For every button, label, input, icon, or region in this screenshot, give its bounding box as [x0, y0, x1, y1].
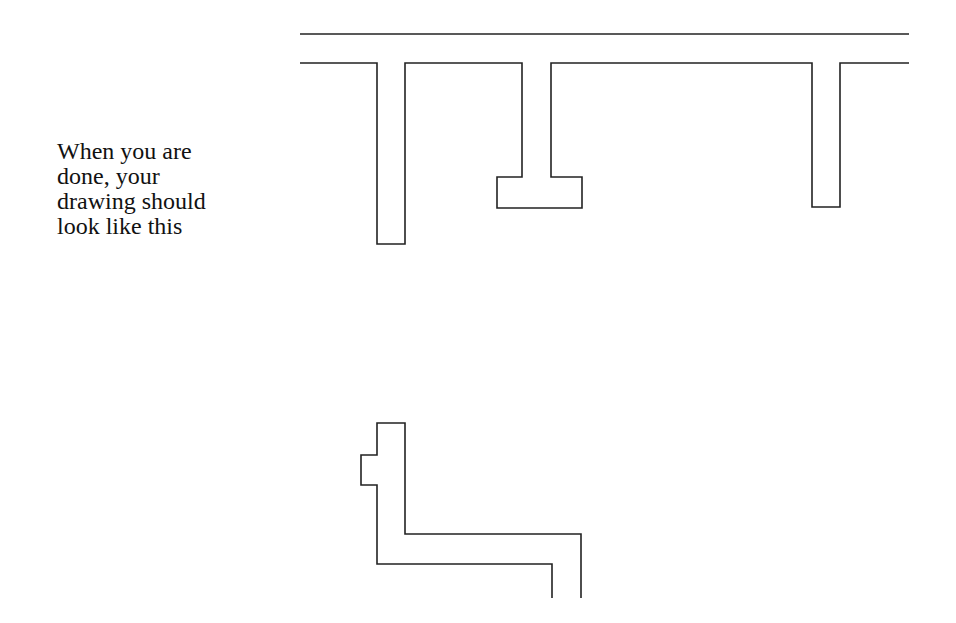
drawing-canvas [0, 0, 956, 623]
upper-outline-shape [300, 63, 909, 244]
lower-outline-shape [361, 423, 581, 598]
